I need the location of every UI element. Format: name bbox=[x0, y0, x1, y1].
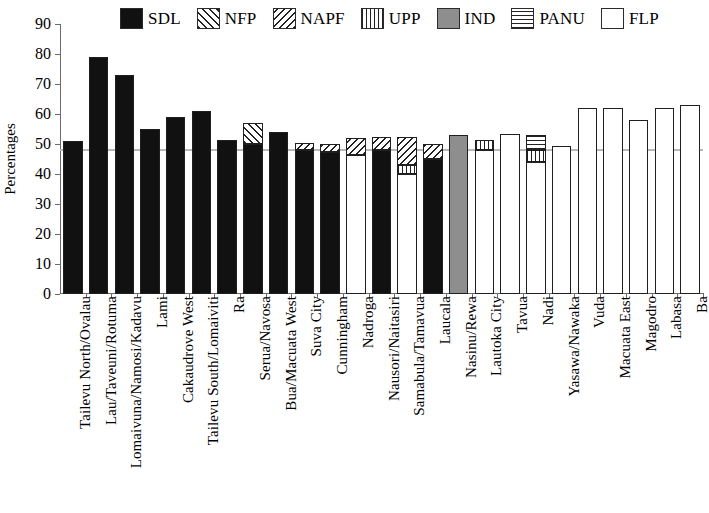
x-tick-label: Tailevu North/Ovalau bbox=[78, 296, 93, 429]
bar bbox=[372, 137, 392, 295]
x-axis-labels: Tailevu North/OvalauLau/Taveuni/RotumaLo… bbox=[60, 296, 703, 511]
bar bbox=[346, 138, 366, 294]
x-tick-label: Serua/Navosa bbox=[258, 296, 273, 381]
x-tick-label: Nausori/Naitasiri bbox=[387, 296, 402, 401]
x-tick-label: Bua/Macuata West bbox=[284, 296, 299, 411]
bar-segment-ind bbox=[449, 135, 469, 294]
bar bbox=[320, 144, 340, 294]
bar bbox=[192, 111, 212, 294]
x-tick-label: Lomaivuna/Namosi/Kadavu bbox=[129, 296, 144, 468]
x-tick-label: Suva City bbox=[309, 296, 324, 357]
y-tick-label: 10 bbox=[35, 255, 51, 273]
bar-segment-sdl bbox=[89, 57, 109, 294]
bar-segment-sdl bbox=[320, 152, 340, 295]
bar bbox=[243, 123, 263, 294]
bar-segment-panu bbox=[526, 135, 546, 150]
x-tick-label: Ra bbox=[232, 296, 247, 313]
x-tick-label: Nasinu/Rewa bbox=[464, 296, 479, 378]
x-tick-label: Vuda bbox=[592, 296, 607, 328]
bar-segment-upp bbox=[475, 140, 495, 151]
bar-segment-flp bbox=[680, 105, 700, 294]
bar-chart: SDLNFPNAPFUPPINDPANUFLP Percentages 0102… bbox=[0, 0, 709, 513]
y-tick-label: 30 bbox=[35, 195, 51, 213]
bars-container bbox=[60, 24, 703, 294]
bar bbox=[449, 135, 469, 294]
y-tick-label: 60 bbox=[35, 105, 51, 123]
y-tick-label: 40 bbox=[35, 165, 51, 183]
y-tick-label: 50 bbox=[35, 135, 51, 153]
bar bbox=[578, 108, 598, 294]
bar bbox=[397, 137, 417, 295]
bar-segment-flp bbox=[629, 120, 649, 294]
y-tick-label: 0 bbox=[43, 285, 51, 303]
bar bbox=[680, 105, 700, 294]
bar bbox=[295, 143, 315, 295]
bar-segment-upp bbox=[397, 165, 417, 174]
x-tick-label: Cakaudrove West bbox=[181, 296, 196, 403]
x-tick-label: Magodro bbox=[644, 296, 659, 352]
x-tick-label: Nadi bbox=[541, 296, 556, 326]
bar-segment-flp bbox=[603, 108, 623, 294]
x-tick-label: Tavua bbox=[515, 296, 530, 333]
y-tick-label: 80 bbox=[35, 45, 51, 63]
bar-segment-sdl bbox=[372, 150, 392, 294]
bar-segment-napf bbox=[372, 137, 392, 151]
bar-segment-upp bbox=[526, 150, 546, 162]
bar bbox=[140, 129, 160, 294]
x-tick-label: Macuata East bbox=[618, 296, 633, 378]
bar-segment-napf bbox=[320, 144, 340, 152]
x-tick-label: Lau/Taveuni/Rotuma bbox=[104, 296, 119, 425]
x-tick-label: Cunningham bbox=[335, 296, 350, 375]
bar-segment-nfp bbox=[243, 123, 263, 144]
bar-segment-sdl bbox=[243, 144, 263, 294]
bar bbox=[629, 120, 649, 294]
y-tick-label: 20 bbox=[35, 225, 51, 243]
bar-segment-sdl bbox=[295, 150, 315, 294]
bar-segment-flp bbox=[346, 155, 366, 295]
bar bbox=[166, 117, 186, 294]
x-tick-label: Yasawa/Nawaka bbox=[567, 296, 582, 397]
bar-segment-flp bbox=[552, 146, 572, 295]
y-tick-label: 70 bbox=[35, 75, 51, 93]
bar bbox=[423, 144, 443, 294]
x-tick-label: Ba bbox=[695, 296, 709, 313]
bar bbox=[115, 75, 135, 294]
y-tick bbox=[55, 294, 60, 295]
bar-segment-napf bbox=[295, 143, 315, 151]
bar-segment-sdl bbox=[423, 159, 443, 294]
x-tick-label: Lautoka City bbox=[489, 296, 504, 376]
bar bbox=[89, 57, 109, 294]
bar-segment-flp bbox=[475, 150, 495, 294]
bar bbox=[63, 141, 83, 294]
bar bbox=[475, 140, 495, 295]
bar-segment-napf bbox=[346, 138, 366, 155]
y-axis-title: Percentages bbox=[2, 123, 19, 195]
x-tick-label: Samabula/Tamavua bbox=[412, 296, 427, 416]
bar-segment-sdl bbox=[217, 140, 237, 295]
bar-segment-napf bbox=[397, 137, 417, 166]
bar-segment-sdl bbox=[192, 111, 212, 294]
bar bbox=[217, 140, 237, 295]
bar-segment-napf bbox=[423, 144, 443, 159]
bar bbox=[269, 132, 289, 294]
bar bbox=[603, 108, 623, 294]
bar-segment-sdl bbox=[115, 75, 135, 294]
x-tick-label: Nadroga bbox=[361, 296, 376, 348]
bar-segment-flp bbox=[655, 108, 675, 294]
bar-segment-sdl bbox=[140, 129, 160, 294]
bar bbox=[526, 135, 546, 294]
x-tick-label: Lami bbox=[155, 296, 170, 328]
y-tick-label: 90 bbox=[35, 15, 51, 33]
x-tick-label: Laucala bbox=[438, 296, 453, 344]
bar bbox=[500, 134, 520, 295]
bar-segment-sdl bbox=[166, 117, 186, 294]
x-tick-label: Tailevu South/Lomaiviti bbox=[206, 296, 221, 445]
plot-area: Percentages 0102030405060708090 bbox=[60, 24, 703, 294]
bar bbox=[655, 108, 675, 294]
bar bbox=[552, 146, 572, 295]
bar-segment-flp bbox=[500, 134, 520, 295]
bar-segment-sdl bbox=[63, 141, 83, 294]
x-tick-label: Labasa bbox=[669, 296, 684, 339]
bar-segment-flp bbox=[526, 162, 546, 294]
bar-segment-sdl bbox=[269, 132, 289, 294]
